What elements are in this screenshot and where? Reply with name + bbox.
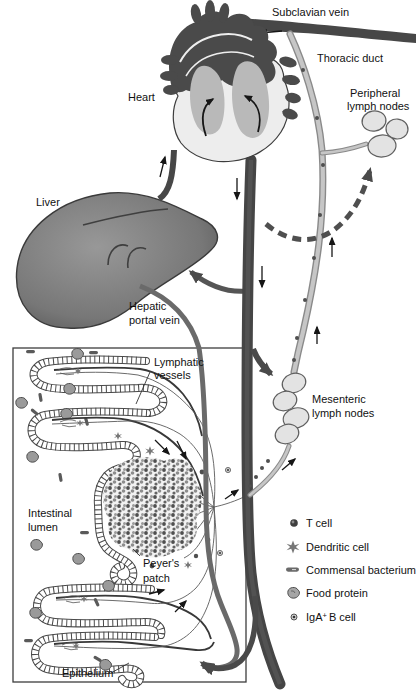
legend-item-iga-b-cell: IgA+B cell <box>291 611 356 624</box>
t-cell-icon <box>290 519 298 527</box>
peyers-patch-cells <box>103 457 202 557</box>
diagram-canvas: Subclavian vein Thoracic duct Heart Peri… <box>0 0 417 695</box>
label-mesenteric-lymph-nodes-1: Mesenteric <box>312 393 366 405</box>
iga-b-cell-icon <box>291 614 297 620</box>
portal-flow-arrow <box>191 272 248 291</box>
label-lymphatic-vessels-2: vessels <box>154 369 191 381</box>
legend-label-post: B cell <box>329 611 356 623</box>
label-peyers-patch-2: patch <box>143 572 170 584</box>
legend-label-pre: IgA <box>306 611 323 623</box>
dendritic-cell-icon <box>287 541 300 554</box>
legend-label: Commensal bacterium <box>306 564 416 576</box>
legend-label: IgA+B cell <box>306 611 356 624</box>
legend-label: Dendritic cell <box>306 541 369 553</box>
legend-label: T cell <box>306 517 332 529</box>
legend-item-dendritic-cell: Dendritic cell <box>287 541 369 554</box>
blood-to-mesenteric-arrow <box>253 349 271 374</box>
label-intestinal-lumen-1: Intestinal <box>28 507 72 519</box>
label-lymphatic-vessels-1: Lymphatic <box>154 356 204 368</box>
label-hepatic-portal-vein-2: portal vein <box>129 314 180 326</box>
label-mesenteric-lymph-nodes-2: lymph nodes <box>312 407 375 419</box>
label-peripheral-lymph-nodes-1: Peripheral <box>350 87 400 99</box>
legend: T cell Dendritic cell Commensal bacteriu… <box>286 517 416 623</box>
label-epithelium: Epithelium <box>62 667 113 679</box>
legend-label-sup: + <box>323 611 328 620</box>
legend-item-food-protein: Food protein <box>288 587 368 599</box>
aorta-vessel <box>247 160 280 684</box>
label-thoracic-duct: Thoracic duct <box>317 52 383 64</box>
legend-label: Food protein <box>306 587 368 599</box>
label-heart: Heart <box>128 91 155 103</box>
label-hepatic-portal-vein-1: Hepatic <box>129 300 167 312</box>
label-liver: Liver <box>36 196 60 208</box>
label-peripheral-lymph-nodes-2: lymph nodes <box>347 100 410 112</box>
commensal-bacterium-icon <box>286 568 299 572</box>
peripheral-lymph-nodes <box>360 109 408 158</box>
legend-item-t-cell: T cell <box>290 517 332 529</box>
liver <box>16 193 217 329</box>
gut-lymphatic-circulation-diagram: Subclavian vein Thoracic duct Heart Peri… <box>0 0 417 695</box>
label-intestinal-lumen-2: lumen <box>28 521 58 533</box>
legend-item-commensal-bacterium: Commensal bacterium <box>286 564 416 576</box>
food-protein-icon <box>288 587 300 598</box>
label-subclavian-vein: Subclavian vein <box>272 6 349 18</box>
label-peyers-patch-1: Peyer's <box>143 557 180 569</box>
